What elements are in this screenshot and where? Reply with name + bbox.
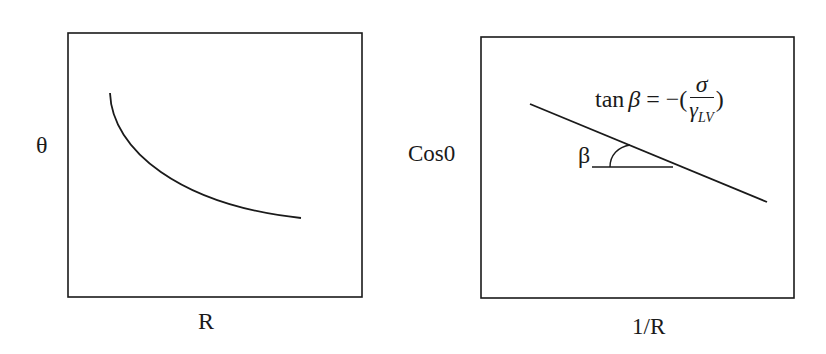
formula-numerator: σ bbox=[690, 72, 714, 98]
diagram-canvas bbox=[0, 0, 826, 354]
formula-gamma: γ bbox=[689, 97, 698, 122]
beta-angle-label: β bbox=[578, 143, 590, 167]
formula-suffix: ) bbox=[716, 87, 724, 111]
left-plot-frame bbox=[68, 33, 362, 297]
slope-formula: tan β = −( σ γLV ) bbox=[595, 72, 724, 126]
formula-subscript: LV bbox=[698, 111, 714, 126]
formula-prefix: tan bbox=[595, 87, 624, 111]
left-x-axis-label: R bbox=[198, 309, 214, 333]
formula-beta: β bbox=[628, 87, 640, 111]
right-x-axis-label: 1/R bbox=[632, 315, 665, 338]
formula-fraction: σ γLV bbox=[689, 72, 714, 126]
left-y-axis-label: θ bbox=[36, 133, 48, 157]
angle-arc bbox=[610, 145, 630, 167]
formula-equals: = −( bbox=[640, 87, 687, 111]
right-y-axis-label: Cos0 bbox=[408, 142, 455, 165]
formula-denominator: γLV bbox=[689, 98, 714, 126]
theta-vs-r-curve bbox=[110, 93, 301, 218]
